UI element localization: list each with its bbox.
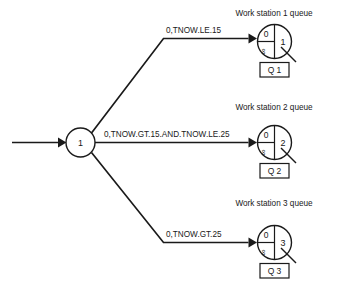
queue-1-server-number: 1 [280, 37, 285, 47]
queue-3-group[interactable]: Work station 3 queue 0 ∞ 3 Q 3 [235, 199, 313, 278]
queue-3-capacity: ∞ [258, 249, 268, 255]
queue-1-group[interactable]: Work station 1 queue 0 ∞ 1 Q 1 [235, 9, 313, 77]
diagram-canvas: 1 0,TNOW.LE.15 0,TNOW.GT.15.AND.TNOW.LE.… [0, 0, 337, 282]
branch-1-edge[interactable] [92, 34, 258, 133]
queue-3-title: Work station 3 queue [235, 199, 313, 208]
queue-1-initial-count: 0 [264, 29, 269, 39]
entry-arrow [12, 138, 67, 148]
queue-3-box-label: Q 3 [268, 266, 282, 276]
branch-3-condition-label: 0,TNOW.GT.25 [166, 230, 222, 239]
queue-3-initial-count: 0 [264, 230, 269, 240]
queue-2-group[interactable]: Work station 2 queue 0 ∞ 2 Q 2 [235, 103, 313, 178]
queue-2-initial-count: 0 [264, 130, 269, 140]
queue-1-box-label: Q 1 [268, 65, 282, 75]
branch-1-condition-label: 0,TNOW.LE.15 [166, 26, 222, 35]
queue-2-box-label: Q 2 [268, 166, 282, 176]
branch-2-edge[interactable] [95, 138, 257, 148]
queue-1-capacity: ∞ [258, 48, 268, 54]
queue-2-capacity: ∞ [258, 149, 268, 155]
queue-2-title: Work station 2 queue [235, 103, 313, 112]
queue-2-server-number: 2 [280, 138, 285, 148]
network-diagram: 1 0,TNOW.LE.15 0,TNOW.GT.15.AND.TNOW.LE.… [0, 0, 337, 282]
queue-1-title: Work station 1 queue [235, 9, 313, 18]
queue-3-server-number: 3 [280, 238, 285, 248]
branch-node-label: 1 [78, 138, 83, 148]
branch-node[interactable]: 1 [66, 128, 95, 157]
branch-2-condition-label: 0,TNOW.GT.15.AND.TNOW.LE.25 [104, 130, 230, 139]
